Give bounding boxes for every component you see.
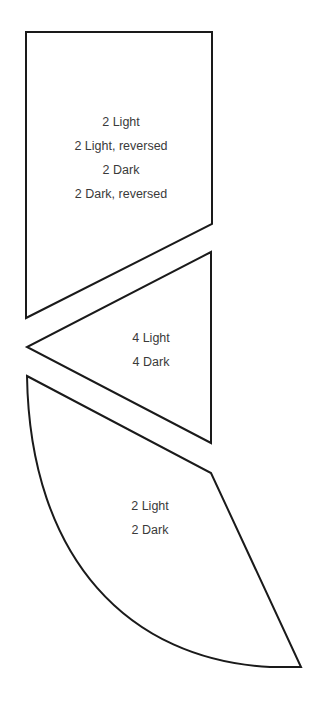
curved-wedge-piece-labels: 2 Light 2 Dark	[131, 494, 169, 542]
triangle-piece-labels: 4 Light 4 Dark	[132, 326, 170, 374]
pentagon-label-4: 2 Dark, reversed	[74, 182, 167, 206]
curved-wedge-label-2: 2 Dark	[131, 518, 169, 542]
triangle-label-1: 4 Light	[132, 326, 170, 350]
pentagon-label-3: 2 Dark	[74, 158, 167, 182]
pentagon-label-2: 2 Light, reversed	[74, 134, 167, 158]
curved-wedge-label-1: 2 Light	[131, 494, 169, 518]
triangle-label-2: 4 Dark	[132, 350, 170, 374]
pentagon-label-1: 2 Light	[74, 110, 167, 134]
pentagon-piece-labels: 2 Light 2 Light, reversed 2 Dark 2 Dark,…	[74, 110, 167, 206]
